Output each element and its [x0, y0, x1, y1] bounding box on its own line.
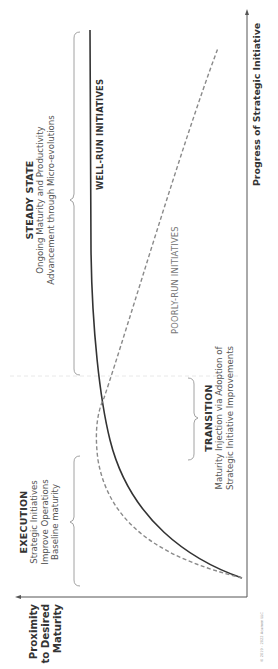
- transition-brace: [188, 378, 198, 460]
- y-axis-title-line-1: Proximity: [28, 604, 40, 666]
- execution-line-2: Improve Operations: [40, 474, 51, 570]
- y-axis-title: Proximity to Desired Maturity: [28, 604, 64, 666]
- transition-title: TRANSITION: [203, 338, 214, 498]
- transition-line-1: Maturity Injection via Adoption of: [214, 338, 225, 498]
- execution-title: EXECUTION: [18, 474, 29, 570]
- x-axis-title: Progress of Strategic Initiative: [251, 23, 262, 186]
- x-axis-arrow-icon: [245, 9, 249, 15]
- steady-state-block: STEADY STATE Ongoing Maturity and Produc…: [24, 110, 56, 290]
- maturity-curve-diagram: STEADY STATE Ongoing Maturity and Produc…: [0, 0, 278, 669]
- execution-line-3: Baseline maturity: [50, 474, 61, 570]
- steady-state-line-2: Advancement through Micro-evolutions: [46, 110, 57, 290]
- poorly-run-label: POORLY-RUN INITIATIVES: [170, 226, 180, 334]
- execution-line-1: Strategic Initiatives: [29, 474, 40, 570]
- copyright-text: © 2019 - 2022 Acumen LLC: [260, 612, 264, 662]
- steady-state-brace: [70, 32, 80, 375]
- execution-block: EXECUTION Strategic Initiatives Improve …: [18, 474, 61, 570]
- y-axis-title-line-2: to Desired: [40, 604, 52, 666]
- well-run-label: WELL-RUN INITIATIVES: [95, 79, 105, 190]
- y-axis-title-line-3: Maturity: [52, 604, 64, 666]
- transition-line-2: Strategic Initiative Improvements: [225, 338, 236, 498]
- y-axis-arrow-icon: [15, 595, 21, 599]
- transition-block: TRANSITION Maturity Injection via Adopti…: [203, 338, 235, 498]
- execution-brace: [70, 456, 80, 586]
- steady-state-title: STEADY STATE: [24, 110, 35, 290]
- steady-state-line-1: Ongoing Maturity and Productivity: [35, 110, 46, 290]
